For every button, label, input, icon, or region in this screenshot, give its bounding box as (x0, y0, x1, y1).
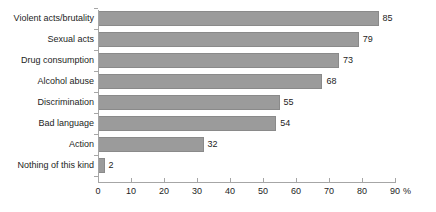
bar-row: Action32 (0, 137, 436, 158)
category-label: Violent acts/brutality (14, 11, 94, 26)
x-axis-tick-label: 30 (192, 186, 202, 196)
bar-value-label: 73 (343, 53, 353, 68)
bar-row: Alcohol abuse68 (0, 74, 436, 95)
bar-row: Discrimination55 (0, 95, 436, 116)
bar (98, 116, 276, 131)
category-label: Action (69, 137, 94, 152)
x-axis-tick-label: 70 (324, 186, 334, 196)
y-axis-tick (94, 176, 98, 177)
x-axis-tick (230, 178, 231, 182)
category-label: Nothing of this kind (17, 158, 94, 173)
bar-row: Violent acts/brutality85 (0, 11, 436, 32)
bar-row: Bad language54 (0, 116, 436, 137)
bar-row: Drug consumption73 (0, 53, 436, 74)
y-axis-tick (94, 50, 98, 51)
category-label: Drug consumption (21, 53, 94, 68)
x-axis-tick-label: 80 (357, 186, 367, 196)
y-axis-tick (94, 113, 98, 114)
y-axis-tick (94, 155, 98, 156)
bar-chart: Violent acts/brutality85Sexual acts79Dru… (0, 0, 436, 212)
bar (98, 95, 280, 110)
x-axis-tick-label: 50 (258, 186, 268, 196)
category-label: Alcohol abuse (37, 74, 94, 89)
x-axis-tick (263, 178, 264, 182)
bar-row: Sexual acts79 (0, 32, 436, 53)
x-axis-tick (197, 178, 198, 182)
y-axis-tick (94, 92, 98, 93)
bar (98, 53, 339, 68)
y-axis-tick (94, 8, 98, 9)
x-axis-tick (329, 178, 330, 182)
y-axis-line (98, 10, 99, 182)
y-axis-tick (94, 29, 98, 30)
y-axis-tick (94, 134, 98, 135)
y-axis-tick (94, 71, 98, 72)
bar-value-label: 68 (326, 74, 336, 89)
bar-value-label: 54 (280, 116, 290, 131)
bar (98, 137, 204, 152)
bar-value-label: 55 (284, 95, 294, 110)
bar-value-label: 85 (383, 11, 393, 26)
bar-value-label: 2 (109, 158, 114, 173)
bar-value-label: 79 (363, 32, 373, 47)
x-axis-line (98, 182, 396, 183)
x-axis-tick (296, 178, 297, 182)
x-axis-tick-label: 60 (291, 186, 301, 196)
bar (98, 32, 359, 47)
x-axis-tick (362, 178, 363, 182)
chart-plot-area: Violent acts/brutality85Sexual acts79Dru… (0, 11, 436, 179)
x-axis-tick (395, 178, 396, 182)
bar (98, 74, 322, 89)
x-axis-tick-label: 10 (126, 186, 136, 196)
x-axis-unit-label: % (403, 186, 411, 196)
x-axis-tick-label: 20 (159, 186, 169, 196)
category-label: Bad language (38, 116, 94, 131)
x-axis-tick-label: 90 (390, 186, 400, 196)
x-axis-tick (98, 178, 99, 182)
x-axis-tick (164, 178, 165, 182)
x-axis-tick-label: 0 (95, 186, 100, 196)
x-axis-tick-label: 40 (225, 186, 235, 196)
category-label: Discrimination (37, 95, 94, 110)
bar-value-label: 32 (208, 137, 218, 152)
bar-row: Nothing of this kind2 (0, 158, 436, 179)
category-label: Sexual acts (47, 32, 94, 47)
bar (98, 11, 379, 26)
x-axis-tick (131, 178, 132, 182)
